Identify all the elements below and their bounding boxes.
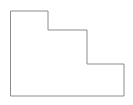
step-polygon-svg — [0, 0, 133, 105]
step-polygon-outline — [11, 11, 124, 96]
figure-canvas — [0, 0, 133, 105]
